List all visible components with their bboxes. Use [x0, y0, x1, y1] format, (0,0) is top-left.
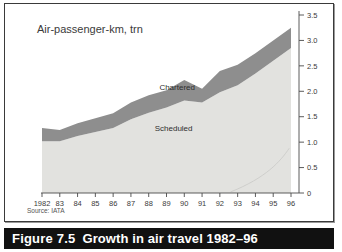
- y-axis-ticks: [299, 15, 304, 193]
- plot-area: 19828384858687888990919293949596 00.51.0…: [5, 4, 335, 223]
- x-axis-tick-label: 86: [109, 199, 117, 208]
- x-axis-tick-label: 93: [233, 199, 241, 208]
- x-axis-tick-labels: 19828384858687888990919293949596: [34, 199, 296, 208]
- x-axis-tick-label: 94: [251, 199, 259, 208]
- y-axis-tick-label: 1.5: [307, 112, 317, 121]
- chart-title: Air-passenger-km, trn: [37, 23, 143, 35]
- figure-caption-number: Figure 7.5: [12, 231, 75, 246]
- area-chart: 19828384858687888990919293949596 00.51.0…: [5, 4, 335, 223]
- x-axis-tick-label: 91: [198, 199, 206, 208]
- x-axis-tick-label: 85: [91, 199, 99, 208]
- x-axis-tick-label: 88: [145, 199, 153, 208]
- x-axis-tick-label: 89: [162, 199, 170, 208]
- x-axis-tick-label: 90: [180, 199, 188, 208]
- x-axis-ticks: [42, 193, 291, 197]
- source-note: Source: IATA: [27, 207, 65, 214]
- chart-panel: 19828384858687888990919293949596 00.51.0…: [4, 3, 334, 222]
- y-axis-tick-label: 2.0: [307, 87, 317, 96]
- x-axis-tick-label: 84: [73, 199, 81, 208]
- x-axis-tick-label: 92: [216, 199, 224, 208]
- y-axis-tick-label: 0: [307, 189, 311, 198]
- figure-caption-text: Growth in air travel 1982–96: [82, 231, 258, 246]
- x-axis-tick-label: 95: [269, 199, 277, 208]
- y-axis-tick-label: 3.5: [307, 11, 317, 20]
- y-axis-tick-label: 2.5: [307, 62, 317, 71]
- y-axis-tick-label: 3.0: [307, 36, 317, 45]
- figure-caption-bar: Figure 7.5 Growth in air travel 1982–96: [4, 228, 334, 249]
- y-axis-tick-label: 0.5: [307, 163, 317, 172]
- x-axis-tick-label: 96: [287, 199, 295, 208]
- y-axis-tick-labels: 00.51.01.52.02.53.03.5: [307, 11, 317, 198]
- x-axis-tick-label: 87: [127, 199, 135, 208]
- series-label-scheduled: Scheduled: [155, 124, 193, 133]
- series-label-chartered: Chartered: [159, 83, 195, 92]
- y-axis-tick-label: 1.0: [307, 138, 317, 147]
- figure-container: 19828384858687888990919293949596 00.51.0…: [0, 0, 342, 252]
